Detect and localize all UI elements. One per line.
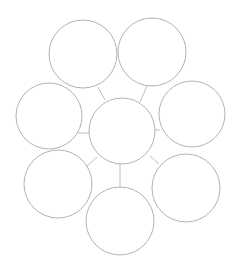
- connector-line-top-left: [98, 87, 105, 100]
- connector-line-top-right: [140, 86, 147, 102]
- circle-left: [16, 83, 82, 149]
- circle-map-diagram: [0, 0, 237, 273]
- circle-bottom: [86, 187, 154, 255]
- circle-bottom-right: [152, 154, 220, 222]
- center-circle: [89, 98, 155, 164]
- circle-bottom-left: [24, 150, 92, 218]
- connector-line-bottom-left: [87, 157, 97, 166]
- connector-line-bottom-right: [150, 156, 159, 164]
- circle-top-right: [118, 18, 186, 86]
- circle-right: [159, 81, 225, 147]
- circle-top-left: [49, 20, 117, 88]
